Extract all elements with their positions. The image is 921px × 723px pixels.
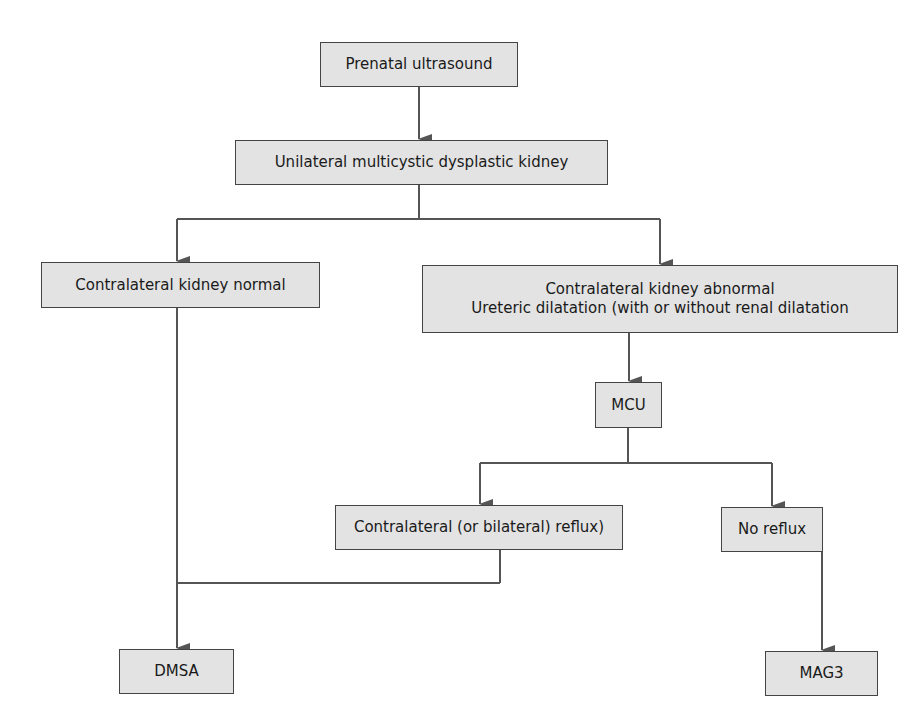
node-mcu: MCU (595, 382, 662, 428)
node-prenatal-ultrasound: Prenatal ultrasound (320, 42, 518, 87)
node-dmsa: DMSA (119, 649, 234, 694)
node-label: MCU (611, 396, 645, 415)
node-label: No reflux (738, 520, 806, 539)
connectors (0, 0, 921, 723)
node-label: Prenatal ultrasound (346, 55, 493, 74)
node-label: Contralateral (or bilateral) reflux) (354, 518, 604, 537)
node-label: Unilateral multicystic dysplastic kidney (275, 153, 569, 172)
node-label-line2: Ureteric dilatation (with or without ren… (471, 299, 848, 318)
node-contralateral-abnormal: Contralateral kidney abnormal Ureteric d… (422, 265, 898, 333)
node-no-reflux: No reflux (721, 507, 823, 552)
node-contralateral-normal: Contralateral kidney normal (41, 262, 320, 308)
node-label: DMSA (154, 662, 199, 681)
node-label: MAG3 (799, 664, 843, 683)
node-label: Contralateral kidney normal (75, 276, 285, 295)
node-mag3: MAG3 (765, 651, 878, 696)
node-reflux: Contralateral (or bilateral) reflux) (335, 505, 623, 550)
node-label-line1: Contralateral kidney abnormal (545, 280, 774, 299)
flowchart: Prenatal ultrasound Unilateral multicyst… (0, 0, 921, 723)
node-unilateral-mcdk: Unilateral multicystic dysplastic kidney (235, 140, 608, 185)
